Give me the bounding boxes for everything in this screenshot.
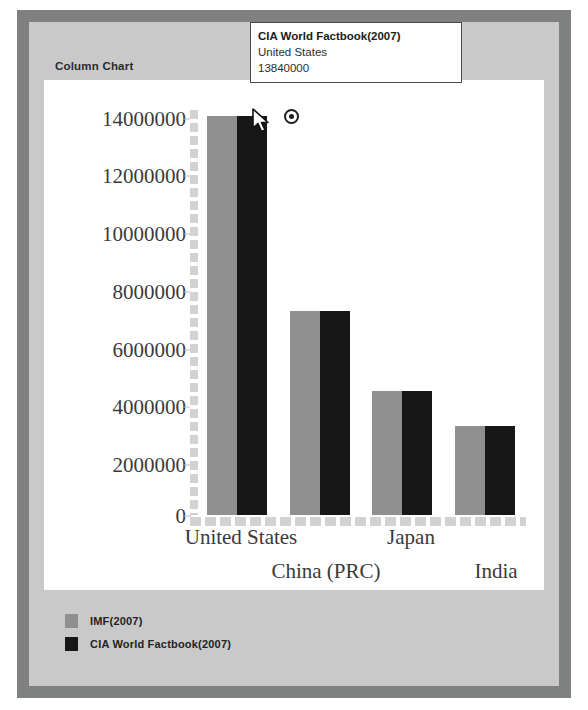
bar-group-japan bbox=[361, 110, 444, 515]
y-axis-tick-labels: 14000000 12000000 10000000 8000000 60000… bbox=[44, 80, 186, 590]
tooltip-series: United States bbox=[258, 44, 454, 60]
y-axis-tick: 14000000 bbox=[102, 107, 186, 132]
bar-cia-united-states[interactable] bbox=[237, 116, 267, 515]
y-axis-tick: 6000000 bbox=[113, 338, 187, 363]
y-axis-tick: 2000000 bbox=[113, 453, 187, 478]
legend-item-cia-world-factbook[interactable]: CIA World Factbook(2007) bbox=[65, 637, 231, 651]
bar-groups bbox=[196, 110, 526, 515]
y-axis-tick: 12000000 bbox=[102, 164, 186, 189]
chart-window-frame: Column Chart 14000000 12000000 10000000 … bbox=[17, 10, 571, 698]
bar-group-india bbox=[444, 110, 527, 515]
y-axis-tick: 10000000 bbox=[102, 222, 186, 247]
bar-imf-china-prc[interactable] bbox=[290, 311, 320, 515]
legend-label-cia-world-factbook: CIA World Factbook(2007) bbox=[90, 638, 231, 650]
bar-imf-india[interactable] bbox=[455, 426, 485, 515]
chart-canvas: 14000000 12000000 10000000 8000000 60000… bbox=[44, 80, 544, 590]
chart-legend: IMF(2007) CIA World Factbook(2007) bbox=[65, 614, 231, 660]
tooltip-value: 13840000 bbox=[258, 60, 454, 76]
bar-imf-united-states[interactable] bbox=[207, 116, 237, 515]
mouse-pointer-icon bbox=[252, 108, 270, 134]
chart-panel: Column Chart 14000000 12000000 10000000 … bbox=[29, 22, 559, 686]
legend-item-imf[interactable]: IMF(2007) bbox=[65, 614, 231, 628]
bar-group-united-states bbox=[196, 110, 279, 515]
bar-group-china-prc bbox=[279, 110, 362, 515]
bar-imf-japan[interactable] bbox=[372, 391, 402, 515]
chart-title: Column Chart bbox=[55, 60, 133, 72]
y-axis-tick: 4000000 bbox=[113, 395, 187, 420]
x-axis-label-india: India bbox=[474, 559, 517, 584]
bar-cia-india[interactable] bbox=[485, 426, 515, 515]
chart-tooltip: CIA World Factbook(2007) United States 1… bbox=[250, 22, 462, 83]
x-axis-category-labels: United States China (PRC) Japan India bbox=[190, 525, 535, 595]
bar-cia-japan[interactable] bbox=[402, 391, 432, 515]
x-axis-label-japan: Japan bbox=[387, 525, 435, 550]
legend-label-imf: IMF(2007) bbox=[90, 615, 143, 627]
x-axis-label-united-states: United States bbox=[185, 525, 298, 550]
legend-swatch-cia-world-factbook bbox=[65, 637, 78, 651]
legend-swatch-imf bbox=[65, 614, 78, 628]
bar-cia-china-prc[interactable] bbox=[320, 311, 350, 515]
tooltip-title: CIA World Factbook(2007) bbox=[258, 28, 454, 44]
data-point-marker-icon[interactable] bbox=[284, 109, 299, 124]
y-axis-tick: 8000000 bbox=[113, 280, 187, 305]
x-axis-label-china-prc: China (PRC) bbox=[271, 559, 380, 584]
plot-area bbox=[196, 110, 526, 515]
